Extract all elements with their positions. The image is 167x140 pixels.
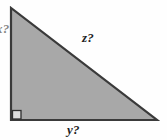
triangle-shape — [11, 8, 157, 120]
side-label-base: y? — [67, 123, 80, 136]
side-label-hypotenuse: z? — [82, 31, 94, 44]
triangle-graphic — [0, 0, 167, 140]
right-angle-marker-icon — [13, 111, 22, 120]
side-label-vertical: x? — [0, 22, 9, 35]
right-triangle-figure: x? z? y? — [0, 0, 167, 140]
